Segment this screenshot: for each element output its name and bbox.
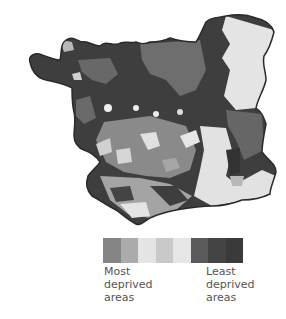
legend-color-scale [103,238,243,263]
legend-swatch-3 [138,238,156,263]
legend-swatch-1 [103,238,121,263]
map-regions [0,0,286,230]
legend-most-deprived-label: Most deprived areas [104,265,153,304]
legend-swatch-2 [121,238,139,263]
legend-swatch-8 [226,238,244,263]
legend-least-deprived-label: Least deprived areas [206,265,255,304]
legend-swatch-7 [208,238,226,263]
legend-swatch-5 [173,238,191,263]
deprivation-map [0,0,286,230]
legend-swatch-4 [156,238,174,263]
legend-swatch-6 [191,238,209,263]
